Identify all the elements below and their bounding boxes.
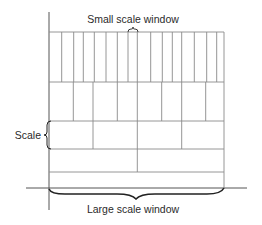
- grid-row-fine: [49, 82, 224, 121]
- large-scale-window-label: Large scale window: [87, 203, 180, 215]
- scale-grid: [49, 32, 224, 188]
- grid-row-coarse: [49, 149, 224, 172]
- grid-row-finest: [49, 32, 224, 82]
- scale-brace-icon: [44, 121, 51, 149]
- scale-window-diagram: Small scale window Scale Large scale win…: [0, 0, 262, 225]
- scale-label: Scale: [15, 129, 41, 141]
- grid-row-coarsest: [49, 172, 224, 188]
- small-window-brace-icon: [128, 27, 138, 32]
- large-window-brace-icon: [49, 188, 224, 199]
- grid-row-medium: [49, 121, 224, 149]
- small-scale-window-label: Small scale window: [87, 13, 179, 25]
